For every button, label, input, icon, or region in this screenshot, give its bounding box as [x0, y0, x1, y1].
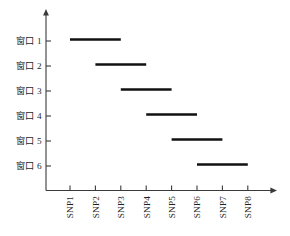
x-tick-label-snp4: SNP4 [142, 196, 152, 218]
y-tick-label-window-2: 窗口 2 [16, 60, 42, 71]
x-tick-label-snp2: SNP2 [91, 196, 101, 218]
x-tick-label-snp5: SNP5 [167, 196, 177, 218]
sliding-window-chart: 窗口 1 窗口 2 窗口 3 窗口 4 窗口 5 窗口 6 SNP1 SNP2 … [0, 0, 290, 236]
x-tick-label-snp1: SNP1 [65, 196, 75, 218]
y-axis-arrow-icon [43, 9, 49, 16]
x-tick-label-snp3: SNP3 [116, 196, 126, 218]
chart-canvas: 窗口 1 窗口 2 窗口 3 窗口 4 窗口 5 窗口 6 SNP1 SNP2 … [0, 0, 290, 236]
y-axis-ticks [46, 41, 51, 166]
y-tick-label-window-3: 窗口 3 [16, 85, 42, 96]
y-tick-label-window-1: 窗口 1 [16, 35, 42, 46]
y-tick-labels: 窗口 1 窗口 2 窗口 3 窗口 4 窗口 5 窗口 6 [16, 35, 42, 171]
y-tick-label-window-6: 窗口 6 [16, 160, 42, 171]
x-axis-ticks [70, 186, 248, 191]
y-tick-label-window-5: 窗口 5 [16, 135, 42, 146]
x-tick-labels: SNP1 SNP2 SNP3 SNP4 SNP5 SNP6 SNP7 SNP8 [65, 196, 253, 218]
y-tick-label-window-4: 窗口 4 [16, 110, 42, 121]
x-axis-arrow-icon [270, 188, 277, 194]
window-bars [70, 40, 248, 165]
x-tick-label-snp8: SNP8 [243, 196, 253, 218]
x-tick-label-snp7: SNP7 [218, 196, 228, 218]
x-tick-label-snp6: SNP6 [192, 196, 202, 218]
